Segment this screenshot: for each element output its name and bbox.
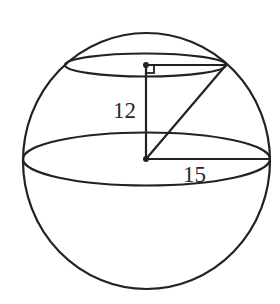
sphere-center-point	[143, 156, 149, 162]
sphere-diagram: 12 15	[0, 0, 280, 304]
height-label: 12	[113, 98, 136, 123]
slant-radius-segment	[146, 65, 226, 159]
cross-section-center-point	[143, 62, 149, 68]
radius-label: 15	[183, 162, 206, 187]
